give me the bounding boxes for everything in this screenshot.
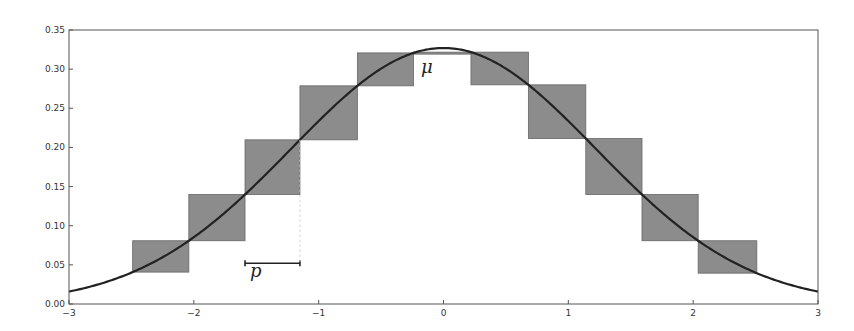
box: [471, 52, 528, 85]
x-tick-label: 2: [690, 308, 696, 318]
x-tick-label: 0: [441, 308, 447, 318]
normal-distribution-chart: −3−2−10123 0.000.050.100.150.200.250.300…: [0, 0, 854, 331]
x-tick-label: −2: [187, 308, 200, 318]
x-tick-label: 1: [565, 308, 571, 318]
mu-label: μ: [421, 56, 433, 77]
approximation-boxes: [133, 52, 757, 273]
x-tick-label: 3: [815, 308, 821, 318]
x-tick-label: −1: [312, 308, 325, 318]
y-tick-label: 0.05: [45, 260, 65, 270]
box: [357, 53, 413, 86]
y-tick-label: 0.00: [45, 299, 65, 309]
p-label: p: [250, 260, 262, 281]
y-tick-label: 0.25: [45, 103, 65, 113]
box: [414, 52, 471, 54]
x-tick-label: −3: [62, 308, 75, 318]
x-axis: −3−2−10123: [62, 300, 821, 318]
y-tick-label: 0.10: [45, 221, 65, 231]
y-tick-label: 0.15: [45, 182, 65, 192]
y-tick-label: 0.35: [45, 25, 65, 35]
y-tick-label: 0.30: [45, 64, 65, 74]
y-tick-label: 0.20: [45, 142, 65, 152]
